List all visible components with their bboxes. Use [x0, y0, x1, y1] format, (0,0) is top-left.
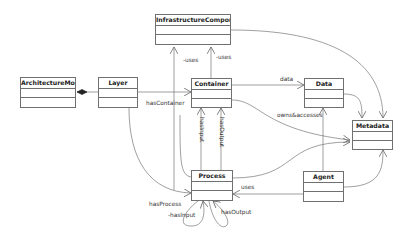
class-layer[interactable]: Layer [98, 77, 138, 108]
label-uses-agent-process: uses [241, 184, 254, 190]
class-attributes [192, 182, 232, 191]
class-name: InfrastructureComponent [156, 15, 230, 26]
class-architecture-model[interactable]: ArchitectureModel [20, 77, 76, 108]
class-container[interactable]: Container [191, 78, 232, 108]
label-uses-container-infra: -uses [216, 54, 231, 60]
class-attributes [156, 26, 230, 35]
label-has-process: hasProcess [149, 201, 181, 207]
label-has-container: hasContainer [146, 100, 185, 106]
class-name: Container [192, 79, 231, 90]
class-operations [99, 98, 137, 105]
class-name: ArchitectureModel [21, 78, 75, 89]
class-name: Data [305, 79, 343, 90]
label-has-input-container: hasInput [199, 117, 205, 142]
label-data: data [280, 76, 293, 82]
class-operations [353, 141, 392, 148]
label-uses-layer-infra: -uses [183, 57, 198, 63]
class-metadata[interactable]: Metadata [352, 120, 393, 150]
class-operations [192, 191, 232, 198]
label-has-input-self: -hasInput [168, 212, 195, 218]
class-operations [304, 192, 343, 199]
class-agent[interactable]: Agent [303, 171, 344, 202]
class-operations [192, 99, 231, 106]
class-attributes [99, 89, 137, 98]
class-operations [305, 99, 343, 106]
class-operations [156, 35, 230, 42]
label-has-output-self: hasOutput [221, 209, 251, 215]
class-attributes [192, 90, 231, 99]
class-name: Process [192, 171, 232, 182]
label-has-output-container: hasOutput [219, 117, 225, 147]
class-attributes [353, 132, 392, 141]
composition-diamond-icon [77, 90, 87, 95]
class-name: Metadata [353, 121, 392, 132]
class-attributes [21, 89, 75, 98]
class-process[interactable]: Process [191, 170, 233, 201]
class-data[interactable]: Data [304, 78, 344, 108]
label-owns-accesses: owns&accesses [277, 112, 323, 118]
class-attributes [304, 183, 343, 192]
class-infrastructure-component[interactable]: InfrastructureComponent [155, 14, 231, 45]
class-attributes [305, 90, 343, 99]
class-operations [21, 98, 75, 105]
class-name: Agent [304, 172, 343, 183]
class-name: Layer [99, 78, 137, 89]
